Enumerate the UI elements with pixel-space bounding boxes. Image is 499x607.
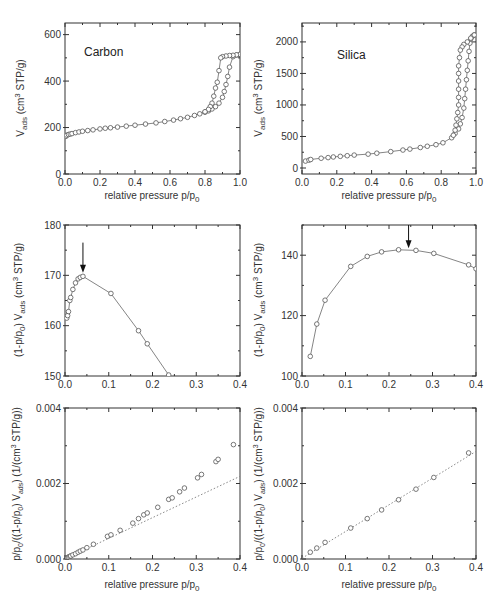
arrow-head-icon — [406, 240, 412, 248]
y-tick-label: 2000 — [276, 36, 299, 47]
data-point — [66, 309, 71, 314]
x-tick-label: 0.3 — [189, 379, 203, 390]
data-point — [466, 59, 471, 64]
plot-frame — [65, 408, 240, 559]
data-point — [375, 151, 380, 156]
x-tick-label: 0.3 — [426, 562, 440, 573]
y-tick-label: 0.000 — [36, 554, 61, 565]
data-point — [466, 451, 471, 456]
data-point — [458, 122, 463, 127]
fit-line — [65, 476, 240, 559]
y-tick-label: 400 — [44, 76, 61, 87]
y-tick-label: 140 — [281, 250, 298, 261]
x-axis-label-carbon-bet: relative pressure p/p0 — [104, 579, 200, 593]
y-tick-label: 120 — [281, 310, 298, 321]
y-axis-label-carbon-bet: p/p0/((1-p/p0) Vads) (1/(cm3 STP/g)) — [10, 407, 24, 561]
panel-title-silica: Silica — [337, 48, 366, 62]
series-line — [306, 35, 475, 161]
y-tick-label: 0.000 — [273, 554, 298, 565]
data-point — [323, 298, 328, 303]
y-tick-label: 200 — [44, 122, 61, 133]
data-point — [365, 254, 370, 259]
data-point — [418, 145, 423, 150]
data-point — [68, 295, 73, 300]
data-point — [323, 540, 328, 545]
panel-title-carbon: Carbon — [84, 45, 123, 59]
plot-frame — [65, 225, 240, 376]
x-tick-label: 0.6 — [399, 177, 413, 188]
y-tick-label: 0.004 — [273, 403, 298, 414]
y-tick-label: 170 — [44, 270, 61, 281]
data-point — [85, 128, 90, 133]
data-point — [217, 68, 222, 73]
data-point — [314, 322, 319, 327]
data-point — [170, 496, 175, 501]
data-point — [308, 157, 313, 162]
data-point — [396, 247, 401, 252]
x-tick-label: 0.2 — [93, 177, 107, 188]
data-point — [425, 144, 430, 149]
data-point — [456, 71, 461, 76]
data-point — [109, 533, 114, 538]
x-tick-label: 0.4 — [469, 562, 483, 573]
data-point — [314, 546, 319, 551]
x-tick-label: 0.6 — [163, 177, 177, 188]
x-axis-label-silica-isotherm: relative pressure p/p0 — [341, 190, 437, 204]
x-tick-label: 0.4 — [233, 379, 247, 390]
data-point — [227, 65, 232, 70]
panel-silica-rouquerol: 0.00.10.20.30.4100120140 — [281, 225, 483, 390]
x-tick-label: 0.3 — [426, 379, 440, 390]
data-point — [109, 291, 114, 296]
y-tick-label: 160 — [44, 320, 61, 331]
x-tick-label: 0.4 — [128, 177, 142, 188]
x-tick-label: 0.2 — [382, 379, 396, 390]
data-point — [217, 101, 222, 106]
y-tick-label: 0 — [55, 169, 61, 180]
data-point — [195, 476, 200, 481]
panel-silica-isotherm: 0.00.20.40.60.81.00500100015002000 — [276, 23, 484, 188]
data-point — [80, 129, 85, 134]
data-point — [464, 77, 469, 82]
data-point — [466, 263, 471, 268]
y-tick-label: 0.004 — [36, 403, 61, 414]
data-point — [185, 115, 190, 120]
y-tick-label: 150 — [44, 371, 61, 382]
data-point — [213, 86, 218, 91]
x-axis-label-carbon-isotherm: relative pressure p/p0 — [104, 190, 200, 204]
x-tick-label: 0.2 — [146, 562, 160, 573]
data-point — [182, 486, 187, 491]
data-point — [388, 149, 393, 154]
data-point — [331, 155, 336, 160]
y-tick-label: 1000 — [276, 99, 299, 110]
x-tick-label: 0.4 — [365, 177, 379, 188]
data-point — [456, 79, 461, 84]
data-point — [220, 95, 225, 100]
data-point — [467, 49, 472, 54]
data-point — [460, 115, 465, 120]
data-point — [115, 125, 120, 130]
x-tick-label: 0.8 — [434, 177, 448, 188]
data-point — [222, 89, 227, 94]
data-point — [162, 119, 167, 124]
data-point — [463, 87, 468, 92]
y-tick-label: 600 — [44, 29, 61, 40]
data-point — [218, 56, 223, 61]
data-point — [396, 497, 401, 502]
data-point — [308, 550, 313, 555]
data-point — [432, 475, 437, 480]
fit-line — [302, 451, 476, 558]
y-axis-label-carbon-rouquerol: (1-p/p0) Vads (cm3 STP/g) — [11, 243, 27, 357]
data-point — [401, 148, 406, 153]
data-point — [166, 373, 171, 378]
data-point — [456, 95, 461, 100]
data-point — [414, 487, 419, 492]
plot-frame — [302, 408, 476, 559]
data-point — [91, 542, 96, 547]
y-tick-label: 0.002 — [273, 478, 298, 489]
data-point — [124, 124, 129, 129]
data-point — [365, 516, 370, 521]
data-point — [458, 48, 463, 53]
data-point — [155, 505, 160, 510]
panel-silica-bet: 0.00.10.20.30.40.0000.0020.004 — [273, 403, 483, 574]
data-point — [408, 147, 413, 152]
